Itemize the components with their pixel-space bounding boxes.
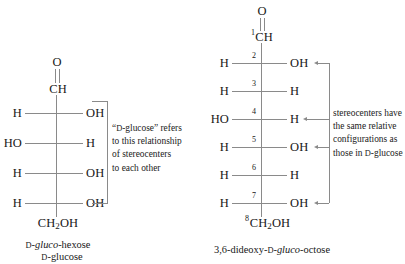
arrow-to-c5-head [314, 145, 318, 149]
arrow-to-c7-head [314, 201, 318, 205]
arrow-spine [329, 63, 330, 203]
arrow-to-c2-head [314, 61, 318, 65]
arrow-to-c4-line [307, 119, 329, 120]
right-annotation-note: stereocenters have the same relative con… [333, 107, 405, 160]
arrow-to-c7-line [318, 203, 329, 204]
arrow-to-c2-line [318, 63, 329, 64]
arrow-to-c5-line [318, 147, 329, 148]
arrow-to-c4-head [303, 117, 307, 121]
